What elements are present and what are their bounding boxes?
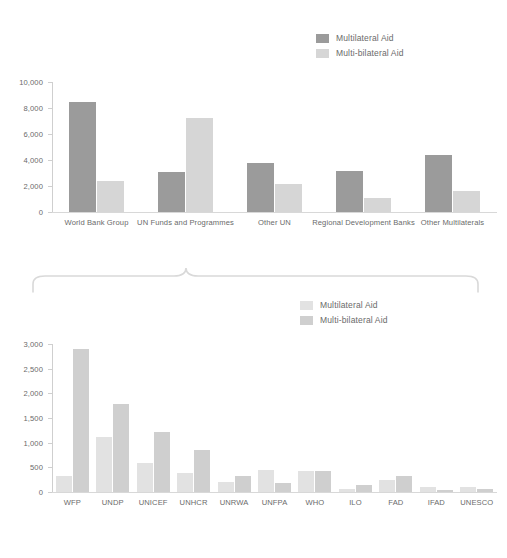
top-chart-y-tick-label: 0 bbox=[0, 208, 43, 217]
bottom-chart-x-tick-label: WFP bbox=[64, 498, 81, 507]
top-chart-bar-group bbox=[408, 82, 497, 212]
bottom-chart-bar-group bbox=[335, 344, 375, 492]
bottom-chart-y-tick-label: 500 bbox=[0, 463, 43, 472]
top-chart-bar bbox=[275, 184, 302, 212]
bottom-chart-y-tick-label: 3,000 bbox=[0, 340, 43, 349]
bottom-chart-y-tick-mark bbox=[48, 344, 52, 345]
bottom-chart-bar bbox=[154, 432, 170, 492]
top-chart-y-tick-mark bbox=[48, 186, 52, 187]
bottom-chart-y-tick-label: 0 bbox=[0, 488, 43, 497]
bottom-chart-bar-group bbox=[133, 344, 173, 492]
top-chart-bar bbox=[97, 181, 124, 212]
bottom-chart-bar bbox=[298, 471, 314, 492]
bottom-chart-bar bbox=[137, 463, 153, 492]
bottom-chart-y-tick-label: 2,000 bbox=[0, 389, 43, 398]
top-chart-panel: Multilateral AidMulti-bilateral Aid 02,0… bbox=[0, 0, 507, 240]
top-chart-bars bbox=[52, 82, 497, 212]
top-chart-y-tick-mark bbox=[48, 82, 52, 83]
top-chart-y-tick-label: 4,000 bbox=[0, 156, 43, 165]
bottom-chart-y-tick-mark bbox=[48, 418, 52, 419]
top-chart-bar-group bbox=[319, 82, 408, 212]
top-chart-y-tick-label: 8,000 bbox=[0, 104, 43, 113]
bottom-chart-x-tick-label: UNFPA bbox=[262, 498, 288, 507]
bottom-chart-x-tick-label: IFAD bbox=[428, 498, 445, 507]
bottom-chart-bar bbox=[73, 349, 89, 492]
top-chart-bar bbox=[186, 118, 213, 212]
top-chart-x-tick-label: Other Multilaterals bbox=[421, 218, 485, 227]
brace-connector-panel bbox=[0, 248, 507, 296]
bottom-chart-bar bbox=[194, 450, 210, 492]
bottom-chart-bar bbox=[218, 482, 234, 492]
bottom-chart-bar bbox=[275, 483, 291, 492]
top-chart-x-tick-label: Other UN bbox=[258, 218, 291, 227]
bottom-chart-bar-group bbox=[254, 344, 294, 492]
bottom-chart-y-tick-label: 2,500 bbox=[0, 364, 43, 373]
top-chart-bar bbox=[158, 172, 185, 212]
top-chart-y-tick-label: 10,000 bbox=[0, 78, 43, 87]
top-chart-x-tick-label: Regional Development Banks bbox=[312, 218, 415, 227]
bottom-chart-y-tick-mark bbox=[48, 467, 52, 468]
top-chart-y-tick-mark bbox=[48, 134, 52, 135]
bottom-chart-x-tick-label: UNRWA bbox=[220, 498, 249, 507]
top-chart-x-tick-label: World Bank Group bbox=[65, 218, 129, 227]
bottom-chart-bar bbox=[96, 437, 112, 492]
top-chart-y-tick-mark bbox=[48, 160, 52, 161]
top-chart-bar bbox=[247, 163, 274, 212]
bottom-chart-bar bbox=[56, 476, 72, 492]
bottom-chart-y-tick-label: 1,500 bbox=[0, 414, 43, 423]
bottom-chart-bar-group bbox=[92, 344, 132, 492]
top-chart-plot: 02,0004,0006,0008,00010,000World Bank Gr… bbox=[0, 0, 507, 240]
bottom-chart-panel: Multilateral AidMulti-bilateral Aid 0500… bbox=[0, 292, 507, 558]
top-chart-bar bbox=[425, 155, 452, 212]
top-chart-baseline bbox=[52, 212, 497, 213]
bottom-chart-bar bbox=[356, 485, 372, 492]
bottom-chart-x-tick-label: UNESCO bbox=[460, 498, 493, 507]
top-chart-bar-group bbox=[52, 82, 141, 212]
bottom-chart-bar-group bbox=[295, 344, 335, 492]
bottom-chart-bar-group bbox=[457, 344, 497, 492]
bottom-chart-bar bbox=[315, 471, 331, 492]
top-chart-bar-group bbox=[230, 82, 319, 212]
top-chart-y-tick-label: 2,000 bbox=[0, 182, 43, 191]
top-chart-bar bbox=[364, 198, 391, 212]
bottom-chart-bar-group bbox=[52, 344, 92, 492]
bottom-chart-x-tick-label: UNHCR bbox=[180, 498, 208, 507]
bottom-chart-y-tick-mark bbox=[48, 443, 52, 444]
top-chart-bar bbox=[69, 102, 96, 213]
bottom-chart-bar bbox=[113, 404, 129, 492]
top-chart-y-tick-label: 6,000 bbox=[0, 130, 43, 139]
bottom-chart-y-tick-mark bbox=[48, 369, 52, 370]
bottom-chart-bar bbox=[235, 476, 251, 492]
bottom-chart-baseline bbox=[52, 492, 497, 493]
bottom-chart-bars bbox=[52, 344, 497, 492]
bottom-chart-y-tick-label: 1,000 bbox=[0, 438, 43, 447]
bottom-chart-y-tick-mark bbox=[48, 393, 52, 394]
bottom-chart-x-tick-label: FAD bbox=[388, 498, 403, 507]
top-chart-x-tick-label: UN Funds and Programmes bbox=[137, 218, 234, 227]
bottom-chart-bar-group bbox=[416, 344, 456, 492]
bottom-chart-x-tick-label: WHO bbox=[306, 498, 325, 507]
top-chart-y-tick-mark bbox=[48, 108, 52, 109]
top-chart-bar bbox=[336, 171, 363, 212]
bottom-chart-x-tick-label: UNICEF bbox=[139, 498, 168, 507]
bottom-chart-bar bbox=[396, 476, 412, 492]
bottom-chart-bar-group bbox=[214, 344, 254, 492]
top-chart-bar bbox=[453, 191, 480, 212]
bottom-chart-x-tick-label: UNDP bbox=[102, 498, 124, 507]
bottom-chart-x-tick-label: ILO bbox=[349, 498, 362, 507]
bottom-chart-plot: 05001,0001,5002,0002,5003,000WFPUNDPUNIC… bbox=[0, 292, 507, 558]
bottom-chart-bar-group bbox=[173, 344, 213, 492]
top-chart-bar-group bbox=[141, 82, 230, 212]
bottom-chart-bar-group bbox=[376, 344, 416, 492]
bottom-chart-bar bbox=[258, 470, 274, 492]
bottom-chart-bar bbox=[379, 480, 395, 492]
curly-brace-icon bbox=[0, 248, 507, 296]
bottom-chart-bar bbox=[177, 473, 193, 492]
